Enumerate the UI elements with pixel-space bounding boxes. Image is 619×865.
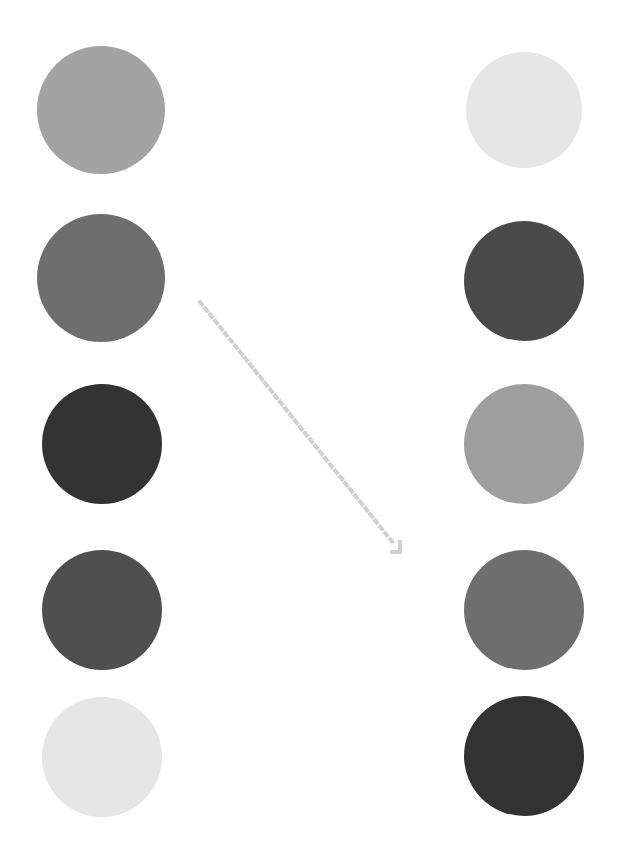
dotted-arrow-down-right-icon — [0, 0, 619, 865]
arrow-line — [200, 302, 394, 544]
